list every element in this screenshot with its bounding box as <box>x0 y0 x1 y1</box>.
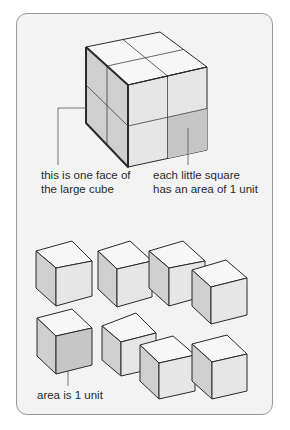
face-label-line-2: the large cube <box>41 182 131 196</box>
small-cube-7 <box>140 336 195 399</box>
small-cube-8 <box>192 335 247 399</box>
unit-area-label: area is 1 unit <box>37 388 103 402</box>
small-cube-4 <box>192 260 247 324</box>
cube-diagram <box>0 0 290 430</box>
square-label-line-2: has an area of 1 unit <box>153 182 258 196</box>
square-label-line-1: each little square <box>153 168 258 182</box>
small-cube-2 <box>98 241 152 307</box>
square-label: each little square has an area of 1 unit <box>153 168 258 196</box>
small-cube-1 <box>36 241 92 306</box>
face-label-line-1: this is one face of <box>41 168 131 182</box>
small-cube-5-unit <box>37 309 92 374</box>
large-cube <box>86 32 207 167</box>
face-label: this is one face of the large cube <box>41 168 131 196</box>
